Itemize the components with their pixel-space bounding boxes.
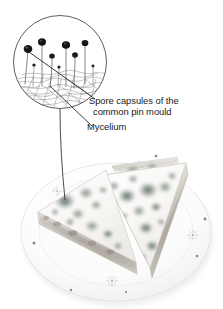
sporangium	[49, 53, 55, 58]
sporangium-small	[57, 66, 60, 69]
sporangium	[72, 52, 78, 57]
sporangium	[38, 38, 46, 45]
sporangium-small	[92, 65, 95, 68]
sporangium	[62, 41, 70, 49]
pin-mould-figure: Spore capsules of thecommon pin mould My…	[0, 0, 223, 309]
label-mycelium: Mycelium	[87, 121, 187, 132]
leader-inset-to-photo	[60, 109, 65, 201]
inset-diagram-layer	[0, 0, 223, 309]
sporangium	[24, 45, 33, 53]
sporangium	[82, 40, 89, 46]
label-spore-line1: Spore capsules of the	[89, 95, 179, 106]
label-spore-capsules: Spore capsules of thecommon pin mould	[89, 95, 217, 118]
label-spore-line2: common pin mould	[89, 106, 217, 117]
sporangium-small	[32, 63, 35, 66]
